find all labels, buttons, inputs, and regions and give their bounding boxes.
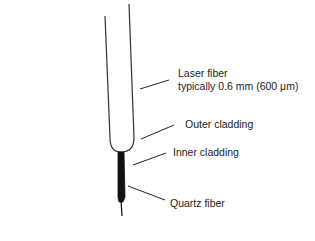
pointer-laser-fiber <box>140 80 169 89</box>
label-laser-fiber: Laser fiber <box>178 67 228 80</box>
label-inner-cladding: Inner cladding <box>173 146 239 159</box>
label-outer-cladding: Outer cladding <box>185 118 253 131</box>
label-quartz-fiber: Quartz fiber <box>170 197 225 210</box>
inner-cladding-segment <box>118 152 125 202</box>
outer-cladding-tube <box>105 4 134 152</box>
pointer-quartz-fiber <box>128 186 165 200</box>
pointer-outer-cladding <box>141 125 174 139</box>
laser-fiber-diagram <box>0 0 315 241</box>
pointer-inner-cladding <box>133 153 166 165</box>
label-laser-fiber-size: typically 0.6 mm (600 μm) <box>178 80 298 93</box>
